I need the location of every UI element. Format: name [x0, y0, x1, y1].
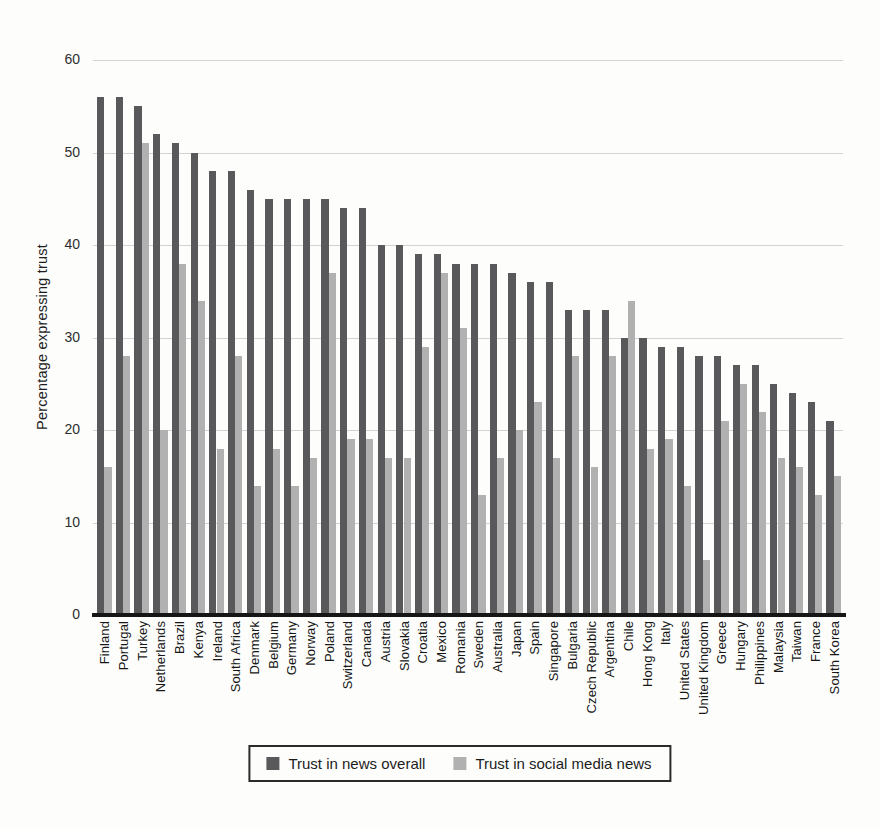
bar-news-overall [658, 347, 665, 615]
x-category-label: South Korea [827, 621, 842, 694]
bar-news-overall [247, 190, 254, 616]
x-category-label: Philippines [752, 621, 767, 685]
bar-social-media [217, 449, 224, 616]
bar-social-media [329, 273, 336, 615]
bar-social-media [684, 486, 691, 616]
x-category-label: Sweden [471, 621, 486, 669]
x-category-label: Australia [490, 621, 505, 672]
bar-social-media [123, 356, 130, 615]
bar-news-overall [752, 365, 759, 615]
bar-news-overall [321, 199, 328, 615]
bar-social-media [572, 356, 579, 615]
y-tick-label: 30 [42, 329, 80, 345]
bar-social-media [497, 458, 504, 615]
bar-social-media [441, 273, 448, 615]
x-category-label: Slovakia [397, 621, 412, 671]
x-category-label: Taiwan [789, 621, 804, 662]
bar-news-overall [396, 245, 403, 615]
bar-news-overall [116, 97, 123, 615]
x-category-label: Germany [284, 621, 299, 675]
legend-swatch-social-media-icon [453, 757, 466, 770]
bar-social-media [385, 458, 392, 615]
bar-news-overall [621, 338, 628, 616]
x-category-label: Netherlands [153, 621, 168, 692]
y-tick-label: 10 [42, 514, 80, 530]
bar-news-overall [639, 338, 646, 616]
bar-social-media [160, 430, 167, 615]
bar-news-overall [546, 282, 553, 615]
x-category-label: Turkey [135, 621, 150, 661]
y-tick-label: 20 [42, 421, 80, 437]
bar-news-overall [565, 310, 572, 615]
x-category-label: South Africa [228, 621, 243, 692]
bar-news-overall [452, 264, 459, 616]
x-category-label: Ireland [210, 621, 225, 661]
x-category-label: Belgium [266, 621, 281, 669]
bar-social-media [422, 347, 429, 615]
y-tick-label: 60 [42, 51, 80, 67]
x-category-label: Denmark [247, 621, 262, 674]
bar-news-overall [434, 254, 441, 615]
legend-label-social-media: Trust in social media news [475, 755, 651, 772]
x-category-label: Brazil [172, 621, 187, 654]
x-category-label: Hong Kong [640, 621, 655, 687]
bar-social-media [740, 384, 747, 615]
legend-swatch-news-overall-icon [266, 757, 279, 770]
x-category-label: Bulgaria [565, 621, 580, 670]
bar-social-media [534, 402, 541, 615]
bar-news-overall [134, 106, 141, 615]
bar-social-media [834, 476, 841, 615]
x-category-label: Mexico [434, 621, 449, 663]
bar-social-media [553, 458, 560, 615]
gridline [93, 153, 843, 154]
bar-social-media [609, 356, 616, 615]
bar-news-overall [359, 208, 366, 615]
bar-social-media [142, 143, 149, 615]
bar-news-overall [471, 264, 478, 616]
bar-news-overall [733, 365, 740, 615]
y-tick-label: 50 [42, 144, 80, 160]
bar-social-media [198, 301, 205, 616]
bar-social-media [291, 486, 298, 616]
x-category-label: Finland [97, 621, 112, 664]
x-category-label: Japan [509, 621, 524, 657]
x-axis-line [92, 613, 846, 617]
x-category-label: Argentina [602, 621, 617, 678]
x-category-label: Austria [378, 621, 393, 662]
bar-social-media [591, 467, 598, 615]
gridline [93, 245, 843, 246]
bar-news-overall [209, 171, 216, 615]
x-category-label: Spain [527, 621, 542, 655]
x-category-label: United States [677, 621, 692, 700]
bar-news-overall [378, 245, 385, 615]
bar-news-overall [695, 356, 702, 615]
bar-social-media [273, 449, 280, 616]
bar-social-media [366, 439, 373, 615]
bar-social-media [647, 449, 654, 616]
bar-news-overall [97, 97, 104, 615]
gridline [93, 523, 843, 524]
scanned-chart-page: Percentage expressing trust 010203040506… [0, 0, 880, 828]
bar-news-overall [490, 264, 497, 616]
bar-news-overall [527, 282, 534, 615]
x-category-label: Portugal [116, 621, 131, 670]
bar-news-overall [265, 199, 272, 615]
bar-social-media [815, 495, 822, 615]
x-category-label: Hungary [733, 621, 748, 671]
x-category-label: France [808, 621, 823, 662]
x-category-label: Switzerland [340, 621, 355, 689]
bar-news-overall [770, 384, 777, 615]
plot-area: 0102030405060FinlandPortugalTurkeyNether… [0, 0, 880, 828]
bar-news-overall [677, 347, 684, 615]
bar-news-overall [303, 199, 310, 615]
bar-news-overall [415, 254, 422, 615]
bar-social-media [179, 264, 186, 616]
bar-social-media [628, 301, 635, 616]
bar-news-overall [508, 273, 515, 615]
bar-social-media [796, 467, 803, 615]
legend-entry-news-overall: Trust in news overall [266, 755, 425, 772]
x-category-label: Singapore [546, 621, 561, 681]
legend-label-news-overall: Trust in news overall [288, 755, 425, 772]
bar-news-overall [153, 134, 160, 615]
bar-social-media [703, 560, 710, 616]
